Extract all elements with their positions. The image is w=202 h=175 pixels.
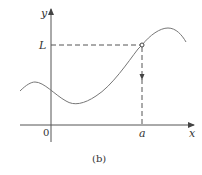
L-label: L bbox=[38, 39, 46, 52]
open-point bbox=[140, 43, 144, 47]
y-axis-label: y bbox=[40, 7, 48, 20]
origin-label: 0 bbox=[43, 127, 49, 138]
x-axis-label: x bbox=[189, 127, 196, 140]
figure-caption: (b) bbox=[92, 153, 106, 164]
down-arrow-icon bbox=[140, 74, 145, 80]
diagram-canvas: y L 0 a x (b) bbox=[0, 0, 202, 175]
limit-diagram: y L 0 a x (b) bbox=[0, 0, 202, 175]
a-label: a bbox=[139, 127, 146, 140]
